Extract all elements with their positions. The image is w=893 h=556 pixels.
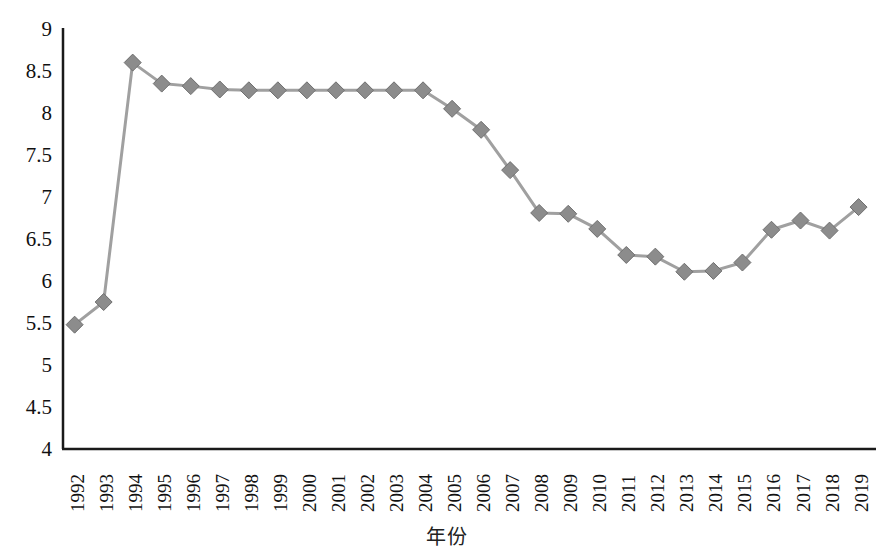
x-axis-tick-label: 2016 (764, 474, 783, 512)
x-axis-tick-label: 2002 (358, 474, 377, 512)
x-axis-tick-label: 1992 (68, 474, 87, 512)
x-axis-tick-label: 2006 (474, 474, 493, 512)
x-axis-tick-label: 2015 (735, 474, 754, 512)
x-axis-tick-label: 2000 (300, 474, 319, 512)
x-axis-tick-label: 1995 (155, 474, 174, 512)
x-axis-tick-label: 2017 (794, 474, 813, 512)
x-axis-tick-label: 2001 (329, 474, 348, 512)
x-axis-tick-label: 2007 (503, 474, 522, 512)
x-axis-tick-label: 1997 (213, 474, 232, 512)
x-axis-tick-label: 2019 (852, 474, 871, 512)
x-axis-tick-label: 2008 (532, 474, 551, 512)
x-axis-title: 年份 (0, 521, 893, 550)
x-axis-tick-label: 1999 (271, 474, 290, 512)
x-axis-tick-label: 1993 (97, 474, 116, 512)
x-axis-tick-label: 2009 (561, 474, 580, 512)
x-axis-tick-labels: 1992199319941995199619971998199920002001… (0, 0, 893, 556)
x-axis-tick-label: 2004 (416, 474, 435, 512)
x-axis-tick-label: 2014 (706, 474, 725, 512)
x-axis-tick-label: 1994 (126, 474, 145, 512)
x-axis-tick-label: 2010 (590, 474, 609, 512)
x-axis-tick-label: 2013 (677, 474, 696, 512)
x-axis-tick-label: 2011 (619, 475, 638, 512)
x-axis-tick-label: 1998 (242, 474, 261, 512)
x-axis-tick-label: 2003 (387, 474, 406, 512)
x-axis-tick-label: 1996 (184, 474, 203, 512)
x-axis-tick-label: 2012 (648, 474, 667, 512)
x-axis-tick-label: 2018 (823, 474, 842, 512)
line-chart: 98.587.576.565.554.54 199219931994199519… (0, 0, 893, 556)
x-axis-tick-label: 2005 (445, 474, 464, 512)
